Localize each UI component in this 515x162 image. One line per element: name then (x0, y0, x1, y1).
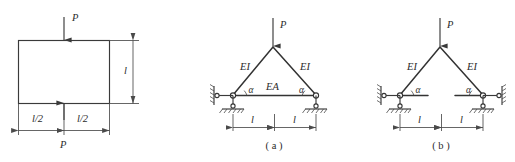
label-left-alpha-b: α (416, 85, 422, 95)
label-half-span-left: l/2 (32, 113, 44, 124)
label-left-span-b: l (418, 114, 421, 125)
label-right-ei-a: EI (299, 61, 310, 72)
caption-a: ( a ) (266, 140, 283, 152)
figure-truss-no-tie: P EI EI α α l l ( b ) (377, 18, 506, 152)
label-left-span-a: l (251, 114, 254, 125)
label-right-ei-b: EI (466, 61, 477, 72)
label-top-load: P (71, 12, 79, 23)
caption-b: ( b ) (432, 140, 450, 152)
label-left-ei-a: EI (239, 61, 250, 72)
label-right-span-a: l (293, 114, 296, 125)
span-dimension-b (400, 114, 483, 131)
label-right-span-b: l (460, 114, 463, 125)
label-half-span-right: l/2 (77, 113, 89, 124)
figure-sheet: P l l/2 l/2 P (0, 0, 515, 162)
label-right-alpha-a: α (299, 85, 305, 95)
label-load-b: P (446, 19, 454, 30)
span-dimension-a (233, 114, 316, 131)
label-load-a: P (279, 19, 287, 30)
label-ea-tie: EA (265, 81, 279, 92)
square-outline (19, 41, 110, 104)
figure-square-block: P l l/2 l/2 P (19, 12, 140, 151)
label-right-alpha-b: α (466, 85, 472, 95)
engineering-figure-canvas: P l l/2 l/2 P (0, 0, 515, 162)
right-support-b (470, 85, 507, 114)
label-height-dim: l (124, 65, 127, 76)
label-left-alpha-a: α (249, 85, 255, 95)
label-left-ei-b: EI (406, 61, 417, 72)
figure-truss-with-tie: P EI EI EA α α l l ( a ) (210, 18, 327, 152)
label-bottom-load: P (59, 139, 67, 150)
